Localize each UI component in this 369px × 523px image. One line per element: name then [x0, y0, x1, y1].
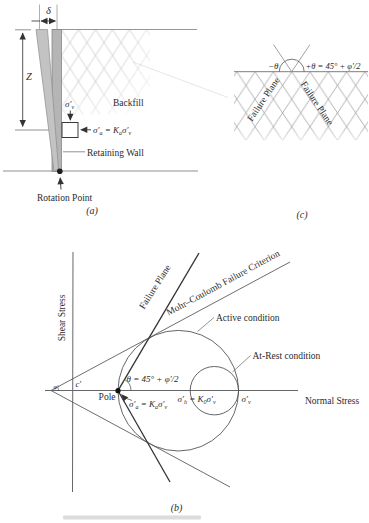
panel-b-caption: (b)	[171, 502, 183, 514]
backfill-label: Backfill	[113, 98, 144, 108]
delta-label: δ	[46, 5, 52, 16]
shear-stress-label: Shear Stress	[57, 294, 67, 341]
shear-stress-axis	[73, 252, 74, 492]
pole-label: Pole	[99, 392, 116, 402]
sigma-a-equation-a: σ′a = Kaσ′v	[93, 125, 131, 136]
depth-z-label: Z	[26, 71, 32, 82]
at-rest-condition-leader	[233, 356, 251, 373]
sigma-a-equation-b: σ′a = Kaσ′v	[129, 399, 167, 410]
sigma-v-label-b: σ′v	[242, 394, 251, 405]
mohr-coulomb-envelope-upper	[51, 262, 290, 391]
panel-a-caption: (a)	[86, 205, 98, 217]
sigma-h-equation-b: σ′h = K0σ′v	[178, 394, 216, 405]
phi-prime-label: φ′	[54, 383, 59, 390]
normal-stress-label: Normal Stress	[305, 396, 359, 406]
minus-theta-label: −θ	[268, 61, 279, 71]
retaining-wall-label: Retaining Wall	[87, 148, 144, 158]
pole-dot	[115, 388, 120, 393]
c-prime-label: c′	[76, 379, 82, 389]
soil-element	[62, 123, 78, 138]
active-condition-label: Active condition	[216, 313, 280, 323]
cropped-caption-strip	[63, 516, 201, 520]
theta-arc-c	[279, 59, 304, 72]
rotation-point-label: Rotation Point	[37, 193, 93, 203]
rotation-point-dot	[57, 169, 63, 175]
theta-equation-label: θ = 45° + φ′/2	[127, 374, 180, 384]
plus-theta-label: +θ = 45° + φ′/2	[306, 61, 362, 71]
panel-c: −θ +θ = 45° + φ′/2 Failure Plane Failure…	[234, 45, 368, 221]
panel-a: Z δ σ′v σ′a = Kaσ′v Backfill Retaining W…	[3, 5, 228, 217]
mohr-coulomb-label: Mohr–Coulomb Failure Criterion	[165, 248, 282, 318]
rotation-point-arrow	[60, 178, 61, 190]
panel-b: Shear Stress Normal Stress Failure Plane…	[45, 248, 359, 519]
rankine-active-pressure-figure: Z δ σ′v σ′a = Kaσ′v Backfill Retaining W…	[0, 0, 369, 523]
active-condition-leader	[198, 318, 215, 332]
at-rest-condition-label: At-Rest condition	[253, 351, 321, 361]
figure-page: Z δ σ′v σ′a = Kaσ′v Backfill Retaining W…	[0, 0, 369, 523]
panel-c-caption: (c)	[296, 209, 308, 221]
failure-plane-label-b: Failure Plane	[137, 263, 173, 311]
